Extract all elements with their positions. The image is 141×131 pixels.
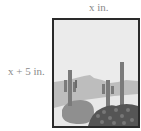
cactus-left [68, 70, 72, 106]
cactus-middle [106, 80, 110, 110]
desert-landscape-illustration [54, 20, 138, 126]
width-label: x in. [89, 1, 109, 13]
height-label: x + 5 in. [8, 65, 45, 77]
boulder [62, 100, 94, 124]
picture-frame [52, 18, 140, 128]
